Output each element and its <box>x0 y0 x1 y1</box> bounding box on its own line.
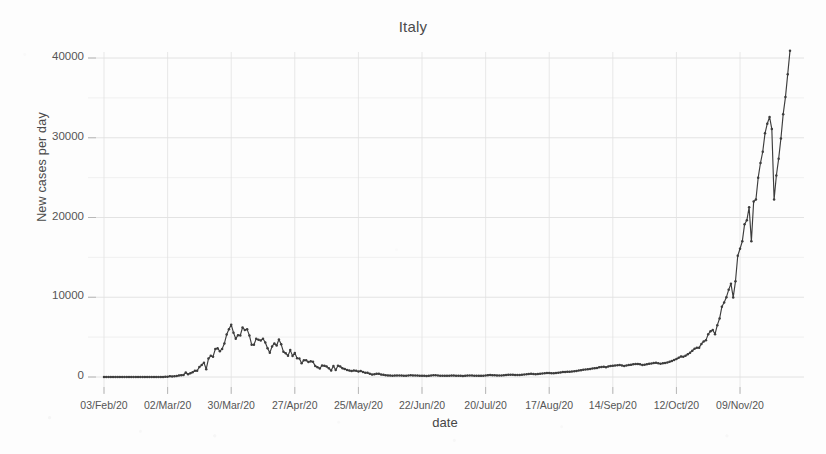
data-point-marker <box>400 374 403 377</box>
data-point-marker <box>693 347 696 350</box>
data-point-marker <box>278 338 281 341</box>
data-point-marker <box>223 342 226 345</box>
data-point-marker <box>655 362 658 365</box>
data-point-marker <box>275 344 278 347</box>
data-point-marker <box>466 374 469 377</box>
data-point-marker <box>225 333 228 336</box>
data-point-marker <box>421 375 424 378</box>
data-point-marker <box>128 376 131 379</box>
data-point-marker <box>500 374 503 377</box>
data-point-marker <box>200 364 203 367</box>
data-point-marker <box>761 151 764 154</box>
data-point-marker <box>752 200 755 203</box>
data-point-marker <box>448 374 451 377</box>
data-point-marker <box>173 375 176 378</box>
data-point-marker <box>612 365 615 368</box>
data-point-marker <box>337 365 340 368</box>
data-point-marker <box>605 366 608 369</box>
data-point-marker <box>498 374 501 377</box>
data-point-marker <box>455 374 458 377</box>
data-point-marker <box>412 374 415 377</box>
data-point-marker <box>491 374 494 377</box>
data-point-marker <box>475 375 478 378</box>
data-point-marker <box>210 355 213 358</box>
data-point-marker <box>591 367 594 370</box>
data-point-marker <box>637 363 640 366</box>
data-point-marker <box>675 358 678 361</box>
data-point-marker <box>437 374 440 377</box>
data-point-marker <box>468 374 471 377</box>
data-point-marker <box>518 374 521 377</box>
data-point-marker <box>107 376 110 379</box>
data-point-marker <box>350 370 353 373</box>
data-point-marker <box>621 364 624 367</box>
data-point-marker <box>646 363 649 366</box>
data-point-marker <box>789 50 792 53</box>
data-point-marker <box>144 376 147 379</box>
data-point-marker <box>580 369 583 372</box>
data-point-marker <box>389 374 392 377</box>
data-point-marker <box>162 376 165 379</box>
data-point-marker <box>353 369 356 372</box>
data-point-marker <box>750 240 753 243</box>
data-point-marker <box>191 371 194 374</box>
data-point-marker <box>727 289 730 292</box>
data-point-marker <box>598 366 601 369</box>
data-point-marker <box>244 329 247 332</box>
data-point-marker <box>714 333 717 336</box>
data-point-marker <box>462 375 465 378</box>
data-point-marker <box>480 375 483 378</box>
data-point-marker <box>718 317 721 320</box>
data-point-marker <box>123 376 126 379</box>
data-point-marker <box>430 374 433 377</box>
data-point-marker <box>305 359 308 362</box>
data-point-marker <box>194 370 197 373</box>
data-point-marker <box>459 375 462 378</box>
data-point-marker <box>316 366 319 369</box>
data-point-marker <box>262 337 265 340</box>
data-point-marker <box>348 369 351 372</box>
data-point-marker <box>623 365 626 368</box>
data-point-marker <box>425 375 428 378</box>
data-point-marker <box>205 368 208 371</box>
data-point-marker <box>416 374 419 377</box>
data-point-marker <box>116 376 119 379</box>
data-point-marker <box>112 376 115 379</box>
data-point-marker <box>639 363 642 366</box>
data-point-marker <box>289 349 292 352</box>
data-point-marker <box>550 372 553 375</box>
data-point-marker <box>391 374 394 377</box>
data-point-marker <box>671 360 674 363</box>
data-point-marker <box>253 343 256 346</box>
data-point-marker <box>319 367 322 370</box>
data-point-marker <box>682 355 685 358</box>
data-point-marker <box>573 370 576 373</box>
data-point-marker <box>255 338 258 341</box>
data-point-marker <box>471 374 474 377</box>
data-point-marker <box>696 346 699 349</box>
data-point-marker <box>616 364 619 367</box>
data-point-marker <box>357 370 360 373</box>
data-point-marker <box>403 374 406 377</box>
data-point-marker <box>119 376 122 379</box>
data-point-marker <box>346 369 349 372</box>
data-point-marker <box>625 364 628 367</box>
data-point-marker <box>212 355 215 358</box>
data-point-marker <box>523 373 526 376</box>
data-point-marker <box>593 367 596 370</box>
data-point-marker <box>643 363 646 366</box>
data-point-marker <box>775 174 778 177</box>
data-point-marker <box>543 372 546 375</box>
data-point-marker <box>689 351 692 354</box>
data-point-marker <box>439 374 442 377</box>
data-point-marker <box>680 355 683 358</box>
data-point-marker <box>287 354 290 357</box>
data-point-marker <box>207 357 210 360</box>
data-point-marker <box>241 326 244 329</box>
data-point-marker <box>773 198 776 201</box>
data-point-marker <box>339 365 342 368</box>
data-point-marker <box>235 338 238 341</box>
data-point-marker <box>125 376 128 379</box>
data-point-marker <box>780 137 783 140</box>
data-point-marker <box>414 374 417 377</box>
